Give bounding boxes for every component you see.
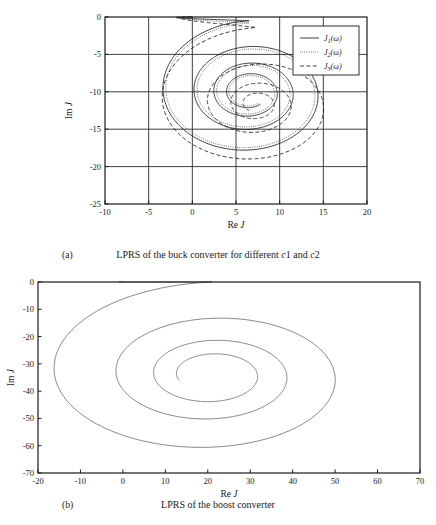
x-tick-label: -20 [32, 476, 43, 486]
x-tick-label: 0 [121, 476, 125, 486]
y-tick-label: -15 [90, 124, 101, 134]
buck-chart-svg: -10-5051015200-5-10-15-20-25 J1(ω)J2(ω)J… [0, 0, 436, 268]
boost-chart-svg: -20-100102030405060700-10-20-30-40-50-60… [0, 268, 436, 525]
lprs-figure: -10-5051015200-5-10-15-20-25 J1(ω)J2(ω)J… [0, 0, 436, 525]
x-tick-label: 20 [363, 207, 372, 217]
x-tick-label: 5 [234, 207, 238, 217]
boost-tick-labels: -20-100102030405060700-10-20-30-40-50-60… [23, 277, 425, 486]
x-tick-label: 20 [204, 476, 213, 486]
boost-y-axis-label: Im J [6, 368, 16, 386]
boost-axes-frame [38, 282, 420, 473]
x-tick-label: 60 [373, 476, 382, 486]
y-tick-label: 0 [30, 277, 34, 287]
x-tick-label: -10 [99, 207, 110, 217]
panel-buck-chart: -10-5051015200-5-10-15-20-25 J1(ω)J2(ω)J… [0, 0, 436, 268]
caption-buck: LPRS of the buck converter for different… [0, 249, 436, 260]
y-tick-label: 0 [97, 12, 101, 22]
y-tick-label: -30 [23, 359, 34, 369]
buck-y-axis-label: Im J [64, 101, 74, 119]
curve-J2(w) [166, 17, 315, 148]
y-tick-label: -50 [23, 413, 34, 423]
curve-boost [54, 282, 335, 447]
legend-label-J3(w): J3(ω) [324, 62, 342, 72]
y-tick-label: -70 [23, 468, 34, 478]
y-tick-label: -20 [23, 332, 34, 342]
x-tick-label: 0 [190, 207, 194, 217]
legend-label-J1(w): J1(ω) [324, 34, 342, 44]
x-tick-label: 10 [275, 207, 284, 217]
caption-boost: LPRS of the boost converter [0, 499, 436, 510]
x-tick-label: 30 [246, 476, 255, 486]
y-tick-label: -5 [94, 49, 101, 59]
caption-buck-mid: and [291, 249, 310, 260]
x-tick-label: -10 [75, 476, 86, 486]
y-tick-label: -60 [23, 441, 34, 451]
y-tick-label: -10 [90, 87, 101, 97]
y-tick-label: -25 [90, 199, 101, 209]
x-tick-label: 70 [416, 476, 425, 486]
x-tick-label: -5 [145, 207, 152, 217]
x-tick-label: 10 [161, 476, 170, 486]
boost-x-axis-label: Re J [220, 489, 238, 499]
buck-x-axis-label: Re J [227, 220, 245, 230]
x-tick-label: 15 [319, 207, 328, 217]
boost-curves [54, 282, 335, 447]
buck-legend: J1(ω)J2(ω)J3(ω) [293, 26, 359, 75]
y-tick-label: -40 [23, 386, 34, 396]
panel-boost-chart: -20-100102030405060700-10-20-30-40-50-60… [0, 268, 436, 525]
y-tick-label: -10 [23, 304, 34, 314]
y-tick-label: -20 [90, 162, 101, 172]
x-tick-label: 40 [288, 476, 297, 486]
legend-label-J2(w): J2(ω) [324, 48, 342, 58]
caption-buck-prefix: LPRS of the buck converter for different [116, 249, 281, 260]
caption-buck-c2-num: 2 [315, 249, 320, 260]
x-tick-label: 50 [331, 476, 340, 486]
